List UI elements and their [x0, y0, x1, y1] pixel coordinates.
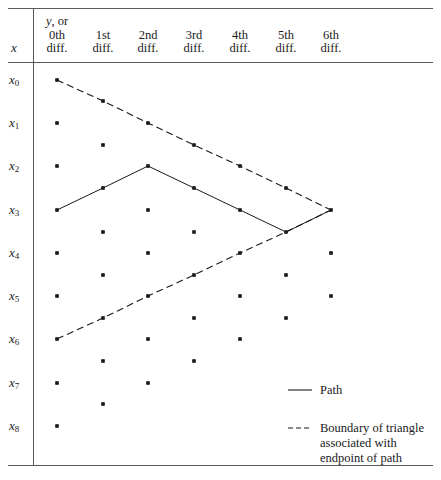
- legend-boundary-line1: Boundary of triangle: [320, 421, 424, 436]
- legend-label-path: Path: [320, 383, 342, 398]
- difference-table-figure: x y, or0thdiff. 1stdiff. 2nddiff. 3rddif…: [0, 0, 441, 480]
- legend-label-boundary: Boundary of triangle associated with end…: [320, 421, 424, 466]
- legend-boundary-line3: endpoint of path: [320, 451, 424, 466]
- legend-boundary-line2: associated with: [320, 436, 424, 451]
- legend-sample-lines: [0, 0, 441, 480]
